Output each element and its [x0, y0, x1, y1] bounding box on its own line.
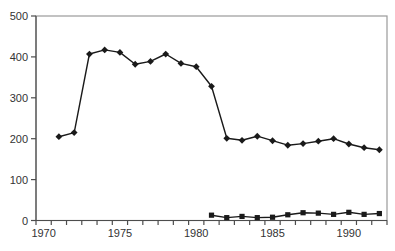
line-chart: 010020030040050019701975198019851990 [0, 0, 395, 251]
data-point-square [285, 212, 290, 217]
data-point-diamond [101, 47, 108, 54]
data-point-square [224, 215, 229, 220]
data-point-diamond [269, 137, 276, 144]
x-axis-tick-label: 1980 [184, 227, 208, 239]
data-point-diamond [86, 51, 93, 58]
data-point-square [209, 213, 214, 218]
data-point-diamond [162, 51, 169, 58]
data-point-diamond [361, 144, 368, 151]
y-axis-tick-label: 100 [10, 174, 28, 186]
data-point-diamond [330, 135, 337, 142]
x-axis-tick-label: 1985 [260, 227, 284, 239]
data-point-diamond [315, 138, 322, 145]
square-series-line [212, 212, 380, 217]
data-point-diamond [376, 146, 383, 153]
data-point-diamond [254, 133, 261, 140]
data-point-square [362, 212, 367, 217]
data-point-diamond [178, 60, 185, 67]
data-point-diamond [71, 129, 78, 136]
data-point-diamond [239, 137, 246, 144]
data-point-diamond [300, 140, 307, 147]
x-axis-tick-label: 1970 [31, 227, 55, 239]
data-point-diamond [147, 58, 154, 65]
data-point-diamond [55, 133, 62, 140]
data-point-square [331, 212, 336, 217]
diamond-series-line [59, 50, 380, 150]
data-point-square [239, 214, 244, 219]
data-point-square [300, 210, 305, 215]
data-point-square [255, 215, 260, 220]
y-axis-tick-label: 400 [10, 51, 28, 63]
chart-screenshot: 010020030040050019701975198019851990 [0, 0, 395, 251]
data-point-square [316, 211, 321, 216]
data-point-square [270, 215, 275, 220]
plot-frame [36, 16, 387, 221]
data-point-diamond [284, 142, 291, 149]
y-axis-tick-label: 500 [10, 10, 28, 22]
data-point-square [346, 210, 351, 215]
data-point-diamond [345, 141, 352, 148]
y-axis-tick-label: 0 [22, 215, 28, 227]
data-point-square [377, 211, 382, 216]
x-axis-tick-label: 1975 [108, 227, 132, 239]
data-point-diamond [223, 135, 230, 142]
y-axis-tick-label: 300 [10, 92, 28, 104]
y-axis-tick-label: 200 [10, 133, 28, 145]
x-axis-tick-label: 1990 [337, 227, 361, 239]
